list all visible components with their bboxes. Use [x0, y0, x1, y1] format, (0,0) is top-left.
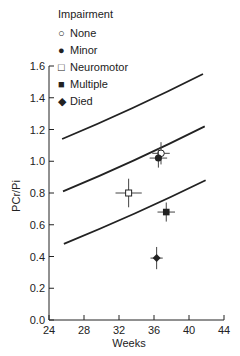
x-tick-label: 36	[148, 324, 160, 336]
y-tick-label: 0.2	[30, 282, 45, 294]
legend-item-died: ◆ Died	[58, 93, 128, 110]
x-tick-label: 44	[218, 324, 230, 336]
filled-circle-icon: ●	[58, 42, 70, 59]
y-tick-label: 0.8	[30, 187, 45, 199]
legend-item-neuromotor: □ Neuromotor	[58, 59, 128, 76]
y-tick-label: 0.6	[30, 219, 45, 231]
data-point-minor	[155, 155, 162, 162]
y-tick-label: 0.4	[30, 251, 45, 263]
legend-title: Impairment	[58, 6, 128, 23]
legend-item-minor: ● Minor	[58, 42, 128, 59]
open-square-icon: □	[58, 59, 70, 76]
legend: Impairment ○ None ● Minor □ Neuromotor ■…	[58, 6, 128, 110]
open-circle-icon: ○	[58, 25, 70, 42]
y-tick-label: 1.4	[30, 92, 45, 104]
data-point-died	[153, 254, 161, 262]
y-tick-label: 1.2	[30, 124, 45, 136]
y-axis-label: PCr/Pi	[10, 176, 22, 216]
data-point-neuromotor	[126, 190, 132, 196]
x-tick-label: 40	[183, 324, 195, 336]
data-point-multiple	[163, 209, 170, 216]
filled-diamond-icon: ◆	[58, 93, 70, 110]
reference-line-middle	[63, 126, 205, 191]
legend-item-none: ○ None	[58, 25, 128, 42]
y-tick-label: 1.6	[30, 60, 45, 72]
y-tick-label: 1.0	[30, 155, 45, 167]
reference-line-lower	[64, 180, 206, 244]
x-tick-label: 24	[43, 324, 55, 336]
filled-square-icon: ■	[58, 76, 70, 93]
legend-item-multiple: ■ Multiple	[58, 76, 128, 93]
x-tick-label: 32	[113, 324, 125, 336]
x-axis-label: Weeks	[0, 337, 240, 349]
x-tick-label: 28	[78, 324, 90, 336]
